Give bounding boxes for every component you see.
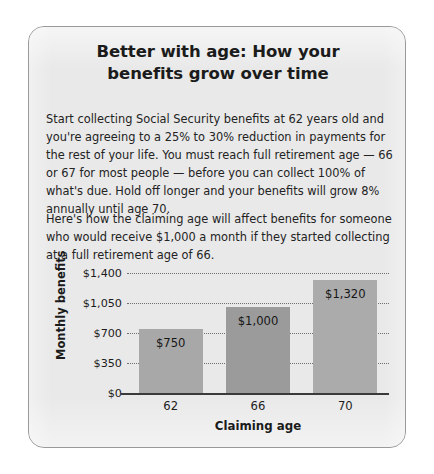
y-axis-tick-label: $1,050 xyxy=(83,297,122,310)
body-paragraph-2: Here's how the claiming age will affect … xyxy=(46,210,394,264)
chart-bar: $750 xyxy=(139,329,203,393)
y-axis-tick-label: $0 xyxy=(108,387,122,400)
gridline xyxy=(127,273,389,274)
x-axis-title: Claiming age xyxy=(127,419,389,433)
chart-bar-value-label: $1,000 xyxy=(226,314,290,328)
page-title-line-1: Better with age: How your xyxy=(49,41,387,63)
body-paragraph-1: Start collecting Social Security benefit… xyxy=(46,110,394,218)
chart-bar: $1,000 xyxy=(226,307,290,393)
page-title: Better with age: How your benefits grow … xyxy=(49,41,387,85)
x-axis-tick-label: 66 xyxy=(251,399,266,413)
x-axis-tick-label: 62 xyxy=(163,399,178,413)
y-axis-tick-label: $700 xyxy=(94,327,122,340)
y-axis-tick-label: $350 xyxy=(94,357,122,370)
x-axis-tick-label: 70 xyxy=(338,399,353,413)
y-axis-tick-label: $1,400 xyxy=(83,267,122,280)
chart-plot-area: $0$350$700$1,050$1,400$75062$1,00066$1,3… xyxy=(127,273,389,393)
benefits-bar-chart: Monthly benefits $0$350$700$1,050$1,400$… xyxy=(39,267,397,439)
x-axis-baseline xyxy=(121,393,389,395)
chart-bar-value-label: $750 xyxy=(139,336,203,350)
y-axis-title: Monthly benefits xyxy=(54,264,68,360)
chart-bar-value-label: $1,320 xyxy=(313,287,377,301)
chart-bar: $1,320 xyxy=(313,280,377,393)
page-title-line-2: benefits grow over time xyxy=(49,63,387,85)
infographic-card: Better with age: How your benefits grow … xyxy=(28,26,406,448)
